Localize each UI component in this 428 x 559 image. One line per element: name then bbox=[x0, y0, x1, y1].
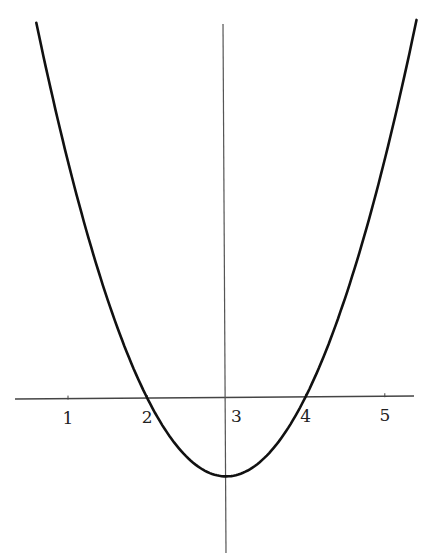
x-axis-tick-labels: 12345 bbox=[63, 405, 391, 427]
y-axis bbox=[223, 24, 226, 553]
parabola-curve bbox=[36, 20, 416, 477]
x-tick-label: 1 bbox=[63, 408, 74, 428]
parabola-chart: 12345 bbox=[0, 0, 428, 559]
x-tick-label: 5 bbox=[379, 405, 390, 425]
x-tick-label: 2 bbox=[142, 407, 153, 427]
x-axis bbox=[15, 396, 414, 399]
x-tick-label: 3 bbox=[231, 406, 242, 426]
x-tick-label: 4 bbox=[300, 406, 311, 426]
